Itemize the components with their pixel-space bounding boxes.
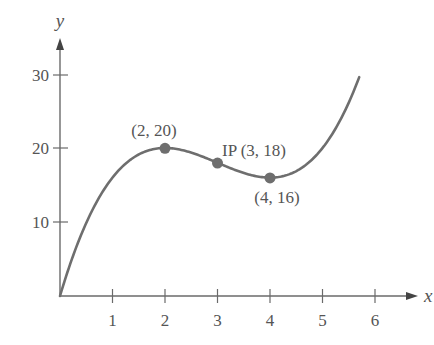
x-tick-label: 4: [266, 311, 275, 330]
x-tick-label: 1: [108, 311, 117, 330]
y-axis-label: y: [54, 10, 65, 31]
function-curve: [60, 77, 359, 296]
point-local-max: [160, 143, 171, 154]
x-tick-labels: 1 2 3 4 5 6: [108, 311, 379, 330]
x-tick-label: 6: [371, 311, 380, 330]
label-local-max: (2, 20): [131, 121, 176, 140]
label-local-min: (4, 16): [254, 188, 299, 207]
y-tick-label: 20: [32, 139, 49, 158]
y-tick-label: 30: [32, 66, 49, 85]
x-tick-label: 3: [213, 311, 222, 330]
x-axis-label: x: [423, 285, 433, 306]
y-tick-labels: 10 20 30: [32, 66, 49, 232]
point-local-min: [265, 172, 276, 183]
y-tick-label: 10: [32, 213, 49, 232]
axes: [56, 38, 418, 300]
x-tick-label: 2: [161, 311, 170, 330]
x-axis-arrow-icon: [406, 292, 418, 300]
y-axis-arrow-icon: [56, 38, 64, 50]
x-tick-label: 5: [318, 311, 327, 330]
chart-canvas: 1 2 3 4 5 6 10 20 30 y x (2, 20) IP (3, …: [0, 0, 434, 345]
label-inflection: IP (3, 18): [222, 141, 286, 160]
